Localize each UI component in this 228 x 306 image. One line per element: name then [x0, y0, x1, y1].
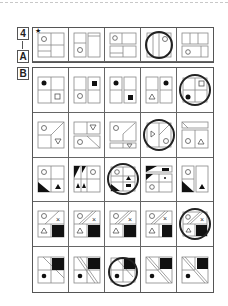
- section-b-label: B: [17, 67, 29, 80]
- panel-a-cell-3[interactable]: [105, 28, 141, 62]
- panel-b-cell-5-1[interactable]: [33, 247, 69, 292]
- panel-a-cell-5[interactable]: [177, 28, 213, 62]
- panel-b-cell-4-3[interactable]: ×: [105, 202, 141, 247]
- label-separator: [22, 41, 23, 49]
- figure-circled-dot-square-icon: [178, 73, 212, 107]
- figure-three-columns-icon: [181, 32, 209, 58]
- panel-b-cell-5-2[interactable]: [69, 247, 105, 292]
- figure-circle-diagonal-triangle-icon: [109, 121, 137, 149]
- figure-block-dot-icon: [37, 256, 65, 284]
- panel-a-cell-4[interactable]: [141, 28, 177, 62]
- figure-two-columns-circled-icon: [143, 30, 175, 60]
- figure-circled-x-block-icon: ×: [178, 207, 212, 241]
- panel-b-cell-3-4[interactable]: [141, 158, 177, 203]
- panel-b-cell-1-2[interactable]: [69, 68, 105, 113]
- panel-a: ★: [32, 27, 214, 63]
- panel-b-cell-3-1[interactable]: [33, 158, 69, 203]
- top-dashed-divider: [0, 2, 228, 3]
- problem-number-label: 4: [17, 27, 29, 40]
- figure-circled-bars-icon: [106, 162, 140, 196]
- panel-b-cell-4-1[interactable]: ×: [33, 202, 69, 247]
- figure-circle-filled-square-icon: [73, 76, 101, 104]
- figure-block-dot-double-diagonal-icon: [145, 256, 173, 284]
- svg-text:×: ×: [200, 216, 204, 223]
- figure-bar-circle-triangle-icon: [181, 121, 209, 149]
- svg-text:×: ×: [163, 215, 167, 222]
- figure-circle-wedge-triangle-icon: [181, 165, 209, 193]
- panel-b-cell-2-3[interactable]: [105, 113, 141, 158]
- panel-b-cell-4-2[interactable]: ×: [69, 202, 105, 247]
- panel-b-cell-1-1[interactable]: [33, 68, 69, 113]
- figure-triangle-circle-split-icon: [73, 121, 101, 149]
- panel-b-cell-5-5[interactable]: [177, 247, 213, 292]
- panel-b-cell-5-3[interactable]: [105, 247, 141, 292]
- panel-b-cell-3-2[interactable]: [69, 158, 105, 203]
- panel-b-cell-1-5[interactable]: [177, 68, 213, 113]
- figure-circle-x-double-diagonal-icon: ×: [73, 210, 101, 238]
- figure-two-columns-icon: [73, 32, 101, 58]
- figure-circled-block-dot-icon: [106, 253, 140, 287]
- figure-circle-triangle-diagonal-icon: [37, 121, 65, 149]
- panel-b-cell-4-5[interactable]: ×: [177, 202, 213, 247]
- panel-b-cell-2-4[interactable]: [141, 113, 177, 158]
- figure-dot-square-icon: [37, 76, 65, 104]
- figure-circle-x-block-narrow-icon: ×: [145, 210, 173, 238]
- panel-b-cell-2-5[interactable]: [177, 113, 213, 158]
- figure-wedge-triangle-icon: [37, 165, 65, 193]
- panel-b-cell-2-1[interactable]: [33, 113, 69, 158]
- panel-b-cell-4-4[interactable]: ×: [141, 202, 177, 247]
- figure-dot-filled-square-icon: [109, 76, 137, 104]
- figure-two-rows-icon: [109, 32, 137, 58]
- figure-top-wedges-icon: [145, 165, 173, 193]
- panel-b-cell-3-5[interactable]: [177, 158, 213, 203]
- section-a-label: A: [17, 50, 29, 63]
- figure-circle-x-triangle-block-icon: ×: [37, 210, 65, 238]
- figure-circle-x-triangle-block-b-icon: ×: [109, 210, 137, 238]
- figure-circled-triangle-circle-icon: [142, 118, 176, 152]
- svg-text:×: ×: [56, 216, 60, 223]
- svg-text:×: ×: [92, 216, 96, 223]
- figure-quad-grid-icon: [37, 32, 65, 58]
- svg-text:×: ×: [128, 216, 132, 223]
- figure-split-wedges-icon: [73, 165, 101, 193]
- panel-a-cell-1[interactable]: ★: [33, 28, 69, 62]
- panel-a-cell-2[interactable]: [69, 28, 105, 62]
- panel-b-cell-5-4[interactable]: [141, 247, 177, 292]
- figure-block-dot-diagonal-b-icon: [181, 256, 209, 284]
- panel-b-cell-2-2[interactable]: [69, 113, 105, 158]
- panel-b-cell-3-3[interactable]: [105, 158, 141, 203]
- panel-b-cell-1-4[interactable]: [141, 68, 177, 113]
- figure-triangle-dot-icon: [145, 76, 173, 104]
- panel-b: × ×: [32, 67, 214, 293]
- figure-block-dot-diagonal-icon: [73, 256, 101, 284]
- panel-b-cell-1-3[interactable]: [105, 68, 141, 113]
